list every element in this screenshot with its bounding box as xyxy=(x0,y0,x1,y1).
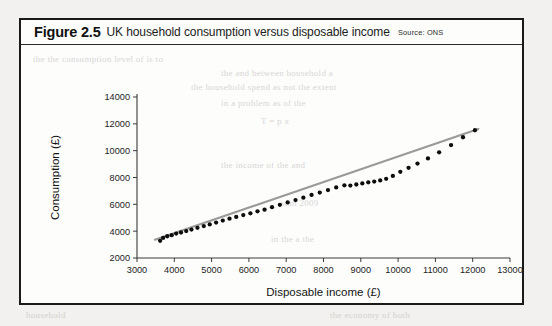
bleed-through-text: household xyxy=(26,310,66,320)
axis-lines xyxy=(137,94,510,258)
data-point xyxy=(270,205,274,209)
bleed-through-text: the economy of both xyxy=(330,310,410,320)
data-point xyxy=(208,222,212,226)
data-point xyxy=(461,135,465,139)
data-point xyxy=(293,198,297,202)
x-tick-label: 10000 xyxy=(385,265,411,275)
y-tick-label: 4000 xyxy=(110,227,130,237)
data-point xyxy=(391,174,395,178)
data-point xyxy=(326,188,330,192)
data-point xyxy=(354,182,358,186)
data-point xyxy=(165,234,169,238)
data-point xyxy=(473,128,477,132)
x-tick-label: 11000 xyxy=(423,265,448,275)
data-point xyxy=(366,180,370,184)
x-tick-label: 3000 xyxy=(127,265,147,275)
data-point xyxy=(227,217,231,221)
data-point xyxy=(189,227,193,231)
data-point xyxy=(342,183,346,187)
y-axis-label: Consumption (£) xyxy=(49,135,61,220)
data-point xyxy=(195,226,199,230)
data-point xyxy=(248,211,252,215)
data-point xyxy=(318,190,322,194)
trend-line xyxy=(155,129,478,240)
data-point xyxy=(241,213,245,217)
data-point xyxy=(170,233,174,237)
data-point xyxy=(278,203,282,207)
y-tick-label: 2000 xyxy=(110,253,130,263)
x-tick-label: 8000 xyxy=(313,265,333,275)
data-point xyxy=(255,209,259,213)
x-tick-label: 13000 xyxy=(497,265,522,275)
data-point xyxy=(372,179,376,183)
data-point xyxy=(415,161,419,165)
figure-source: Source: ONS xyxy=(398,28,443,37)
x-axis-label: Disposable income (£) xyxy=(266,286,381,298)
data-point xyxy=(214,220,218,224)
x-tick-label: 7000 xyxy=(276,265,296,275)
data-point xyxy=(262,208,266,212)
data-point xyxy=(348,183,352,187)
data-point xyxy=(398,170,402,174)
data-point xyxy=(202,224,206,228)
data-point xyxy=(286,200,290,204)
y-tick-label: 6000 xyxy=(110,200,130,210)
data-point xyxy=(309,193,313,197)
figure-header: Figure 2.5 UK household consumption vers… xyxy=(21,20,522,45)
data-point xyxy=(334,185,338,189)
x-tick-label: 9000 xyxy=(351,265,371,275)
data-point xyxy=(221,218,225,222)
y-tick-label: 10000 xyxy=(104,146,130,156)
plot-svg: 2000400060008000100001200014000 30004000… xyxy=(21,45,522,303)
data-point xyxy=(184,229,188,233)
data-point xyxy=(378,178,382,182)
x-tick-label: 5000 xyxy=(201,265,221,275)
x-axis-ticks: 3000400050006000700080009000100001100012… xyxy=(127,258,522,275)
y-tick-label: 8000 xyxy=(110,173,130,183)
data-point xyxy=(426,156,430,160)
data-point xyxy=(384,177,388,181)
data-point xyxy=(301,195,305,199)
y-tick-label: 12000 xyxy=(104,119,130,129)
data-point xyxy=(360,181,364,185)
data-point xyxy=(234,215,238,219)
data-point xyxy=(174,231,178,235)
x-tick-label: 4000 xyxy=(164,265,184,275)
data-point xyxy=(161,236,165,240)
y-axis-ticks: 2000400060008000100001200014000 xyxy=(104,92,137,263)
y-tick-label: 14000 xyxy=(104,92,130,102)
scatter-plot: 2000400060008000100001200014000 30004000… xyxy=(21,45,522,303)
figure-caption: UK household consumption versus disposab… xyxy=(107,25,390,39)
figure-box: the the consumption level of is to the a… xyxy=(19,18,524,305)
data-point xyxy=(179,230,183,234)
data-point xyxy=(437,150,441,154)
figure-number: Figure 2.5 xyxy=(34,24,101,40)
x-tick-label: 12000 xyxy=(460,265,486,275)
x-tick-label: 6000 xyxy=(239,265,259,275)
data-point xyxy=(406,166,410,170)
data-point xyxy=(449,143,453,147)
